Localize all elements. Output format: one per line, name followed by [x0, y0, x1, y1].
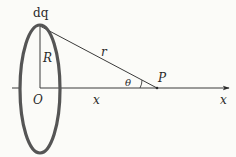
label-radius: R	[42, 51, 52, 65]
label-distance-x: x	[93, 93, 100, 107]
label-point-p: P	[157, 71, 167, 85]
point-p-dot	[156, 87, 159, 90]
label-axis-x: x	[220, 93, 227, 107]
label-origin: O	[33, 93, 43, 107]
label-angle-theta: θ	[125, 77, 131, 88]
ring-charge-diagram: dq R O x r θ P x	[0, 0, 236, 157]
label-separation-r: r	[101, 45, 108, 59]
label-dq: dq	[33, 6, 49, 20]
angle-arc	[140, 80, 142, 88]
